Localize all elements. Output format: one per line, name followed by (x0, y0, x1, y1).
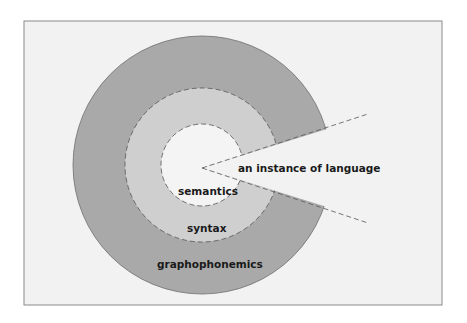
label-syntax: syntax (187, 222, 227, 234)
label-graphophonemics: graphophonemics (157, 258, 263, 270)
language-layers-diagram: an instance of language semantics syntax… (0, 0, 467, 323)
label-semantics: semantics (178, 185, 238, 197)
label-instance: an instance of language (238, 162, 380, 174)
